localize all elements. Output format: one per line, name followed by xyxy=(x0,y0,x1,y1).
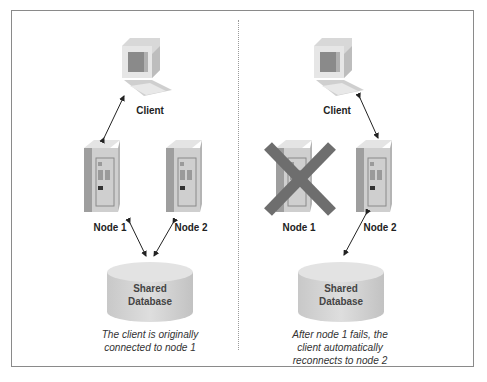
database-label-right: Shared Database xyxy=(305,282,377,308)
database-label-line2: Database xyxy=(114,295,186,308)
client-label-right: Client xyxy=(315,104,360,116)
caption-line2: client automatically xyxy=(276,341,405,354)
caption-line2: connected to node 1 xyxy=(86,341,215,354)
database-label-line1: Shared xyxy=(305,282,377,295)
client-computer-icon xyxy=(122,38,172,96)
node2-server-icon xyxy=(166,140,202,212)
client-computer-icon-right xyxy=(314,38,364,96)
node1-server-icon xyxy=(84,140,120,212)
caption-line1: The client is originally xyxy=(86,328,215,341)
node1-label: Node 1 xyxy=(88,221,133,233)
right-caption: After node 1 fails, the client automatic… xyxy=(276,328,405,367)
database-label-line2: Database xyxy=(305,295,377,308)
node2-label: Node 2 xyxy=(169,221,214,233)
left-caption: The client is originally connected to no… xyxy=(86,328,215,354)
database-label-line1: Shared xyxy=(114,282,186,295)
diagram-graphics xyxy=(0,0,487,382)
node1-label-right: Node 1 xyxy=(277,221,322,233)
node2-server-icon-right xyxy=(356,140,392,212)
node2-label-right: Node 2 xyxy=(358,221,403,233)
database-label: Shared Database xyxy=(114,282,186,308)
caption-line3: reconnects to node 2 xyxy=(276,354,405,367)
client-label: Client xyxy=(128,104,173,116)
caption-line1: After node 1 fails, the xyxy=(276,328,405,341)
